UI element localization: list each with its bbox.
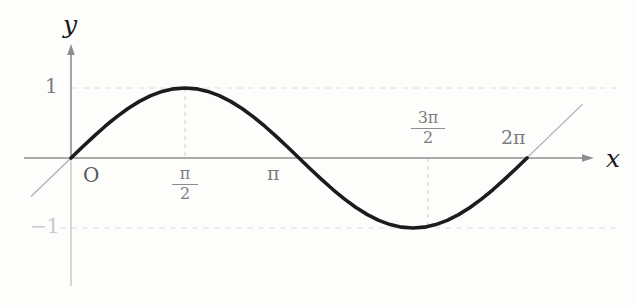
x-tick-label-3pi-over-2: 3π 2 (411, 110, 445, 147)
x-tick-pi-over-2-numerator: π (172, 166, 198, 183)
x-axis-label: x (606, 146, 620, 171)
y-axis-label: y (63, 12, 77, 37)
x-tick-label-pi-over-2: π 2 (172, 166, 198, 203)
x-axis-arrow-head (582, 154, 594, 162)
y-axis-arrow-head (67, 44, 75, 55)
y-tick-label-1: 1 (45, 76, 58, 96)
x-tick-3pi-over-2-denominator: 2 (411, 130, 445, 147)
x-tick-3pi-over-2-numerator: 3π (411, 110, 445, 127)
plot-canvas (0, 0, 637, 306)
y-tick-label-minus-1: −1 (30, 216, 59, 236)
origin-label: O (83, 165, 99, 185)
sine-graph-figure: y x O 1 −1 π 2 π 3π 2 2π (0, 0, 637, 306)
x-tick-pi-over-2-denominator: 2 (172, 186, 198, 203)
x-tick-label-pi: π (267, 164, 280, 183)
x-tick-label-2pi: 2π (501, 128, 526, 147)
